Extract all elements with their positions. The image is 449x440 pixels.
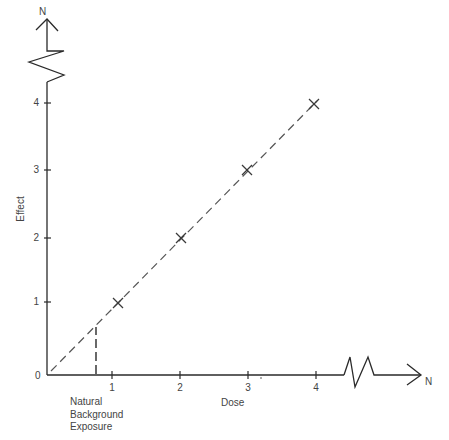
y-tick-label-3: 3 bbox=[27, 164, 39, 176]
dose-effect-dashed-line bbox=[51, 101, 317, 371]
y-tick-label-4: 4 bbox=[27, 97, 39, 109]
x-tick-label-4: 4 bbox=[309, 382, 323, 394]
marker-x-icon bbox=[113, 298, 123, 308]
natural-background-label: Natural Background Exposure bbox=[70, 396, 123, 434]
y-axis-end-label: N bbox=[39, 6, 46, 18]
y-tick-label-2: 2 bbox=[27, 232, 39, 244]
y-tick-label-1: 1 bbox=[27, 296, 39, 308]
x-axis-end-label: N bbox=[425, 376, 432, 388]
x-tick-label-2: 2 bbox=[173, 382, 187, 394]
x-axis-title: Dose bbox=[221, 397, 244, 409]
x-axis-break-icon bbox=[344, 357, 420, 387]
y-axis-break-icon bbox=[29, 20, 64, 82]
x-tick-label-1: 1 bbox=[105, 382, 119, 394]
stray-dot bbox=[260, 377, 262, 379]
chart-canvas bbox=[0, 0, 449, 440]
marker-x-icon bbox=[242, 165, 252, 175]
x-tick-label-3: 3 bbox=[241, 382, 255, 394]
y-axis-title: Effect bbox=[15, 194, 27, 224]
marker-x-icon bbox=[176, 233, 186, 243]
marker-x-icon bbox=[309, 99, 319, 109]
origin-label: 0 bbox=[35, 370, 41, 382]
